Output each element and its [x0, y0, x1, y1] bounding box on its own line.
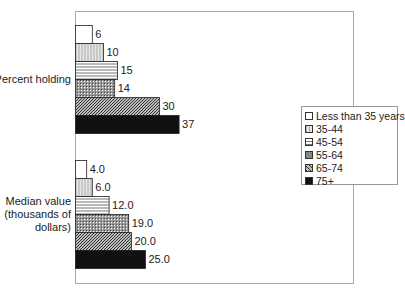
- bar-value-label: 4.0: [90, 163, 105, 175]
- bar-value-label: 30: [163, 100, 175, 112]
- bar: [76, 251, 146, 269]
- bar: [76, 44, 104, 62]
- legend-swatch-icon: [305, 177, 313, 185]
- bar: [76, 62, 118, 80]
- legend-swatch-icon: [305, 138, 313, 146]
- bar: [76, 197, 110, 215]
- bar-value-label: 12.0: [112, 199, 133, 211]
- legend-label: 45-54: [316, 136, 343, 148]
- bar-value-label: 20.0: [135, 235, 156, 247]
- category-label: Percent holding: [0, 73, 71, 85]
- legend-swatch-icon: [305, 164, 313, 172]
- category-label: dollars): [35, 221, 71, 233]
- bar-value-label: 14: [118, 82, 130, 94]
- legend-label: 35-44: [316, 123, 343, 135]
- legend-item: 65-74: [302, 161, 397, 174]
- bar: [76, 98, 160, 116]
- legend-item: 55-64: [302, 148, 397, 161]
- bar: [76, 179, 93, 197]
- bar-value-label: 10: [107, 46, 119, 58]
- legend-swatch-icon: [305, 125, 313, 133]
- bar-value-label: 25.0: [149, 253, 170, 265]
- legend-swatch-icon: [305, 151, 313, 159]
- bar: [76, 80, 115, 98]
- legend-swatch-icon: [305, 112, 313, 120]
- bar: [76, 161, 87, 179]
- bar-value-label: 6: [95, 28, 101, 40]
- legend-label: Less than 35 years: [316, 110, 405, 122]
- bar-value-label: 15: [121, 64, 133, 76]
- bar: [76, 26, 93, 44]
- legend-label: 55-64: [316, 149, 343, 161]
- category-label: (thousands of: [4, 208, 72, 220]
- bar: [76, 215, 129, 233]
- bar-value-label: 19.0: [132, 217, 153, 229]
- category-label: Median value: [6, 195, 71, 207]
- bar: [76, 116, 180, 134]
- legend-label: 75+: [316, 175, 334, 187]
- legend-item: Less than 35 years: [302, 109, 397, 122]
- legend-label: 65-74: [316, 162, 343, 174]
- bar-value-label: 37: [182, 118, 194, 130]
- legend: Less than 35 years35-4445-5455-6465-7475…: [301, 106, 398, 185]
- legend-item: 35-44: [302, 122, 397, 135]
- legend-item: 45-54: [302, 135, 397, 148]
- legend-item: 75+: [302, 174, 397, 187]
- bar: [76, 233, 132, 251]
- bar-value-label: 6.0: [95, 181, 110, 193]
